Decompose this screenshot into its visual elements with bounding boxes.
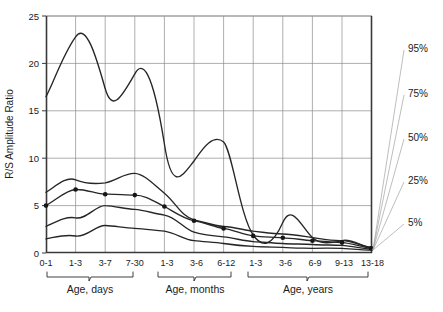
group-brackets <box>47 272 368 281</box>
marker-dot <box>133 193 138 198</box>
marker-dot <box>310 238 315 243</box>
legend-label-25: 25% <box>408 175 428 186</box>
x-tick-label-5: 3-6 <box>190 258 203 268</box>
group-label-years: Age, years <box>283 283 333 295</box>
plot-background <box>46 16 372 253</box>
legend-label-75: 75% <box>408 88 428 99</box>
marker-dot <box>251 234 256 239</box>
marker-dot <box>192 219 197 224</box>
legend-label-5: 5% <box>408 217 423 228</box>
legend-label-50: 50% <box>408 132 428 143</box>
x-tick-label-0: 0-1 <box>39 258 52 268</box>
x-tick-label-9: 6-9 <box>308 258 321 268</box>
legend-leader-lines <box>373 50 404 250</box>
y-tick-label-10: 10 <box>28 153 39 164</box>
marker-dot <box>281 236 286 241</box>
x-tick-label-11: 13-18 <box>361 258 384 268</box>
marker-dot <box>340 240 345 245</box>
marker-dot <box>162 204 167 209</box>
y-tick-label-15: 15 <box>28 105 39 116</box>
percentile-line-chart: 25 20 15 10 5 0 R/S Amplitude Ratio <box>0 0 443 312</box>
y-tick-label-0: 0 <box>34 248 39 259</box>
marker-dot <box>221 226 226 231</box>
marker-dot <box>73 187 78 192</box>
y-axis-title: R/S Amplitude Ratio <box>4 89 15 179</box>
x-tick-label-3: 7-30 <box>126 258 144 268</box>
y-tick-marks <box>42 16 46 253</box>
y-tick-label-25: 25 <box>28 11 39 22</box>
y-tick-label-20: 20 <box>28 58 39 69</box>
legend-label-95: 95% <box>408 43 428 54</box>
x-tick-label-10: 9-13 <box>335 258 353 268</box>
x-tick-label-7: 1-3 <box>249 258 262 268</box>
x-tick-label-6: 6-12 <box>217 258 235 268</box>
marker-dot <box>369 246 374 251</box>
x-tick-label-1: 1-3 <box>69 258 82 268</box>
y-tick-label-5: 5 <box>34 200 39 211</box>
x-tick-label-2: 3-7 <box>99 258 112 268</box>
marker-dot <box>103 192 108 197</box>
chart-container: 25 20 15 10 5 0 R/S Amplitude Ratio <box>0 0 443 312</box>
group-label-months: Age, months <box>166 283 225 295</box>
marker-dot <box>44 203 49 208</box>
x-tick-label-8: 3-6 <box>279 258 292 268</box>
x-tick-label-4: 1-3 <box>160 258 173 268</box>
group-label-days: Age, days <box>67 283 114 295</box>
